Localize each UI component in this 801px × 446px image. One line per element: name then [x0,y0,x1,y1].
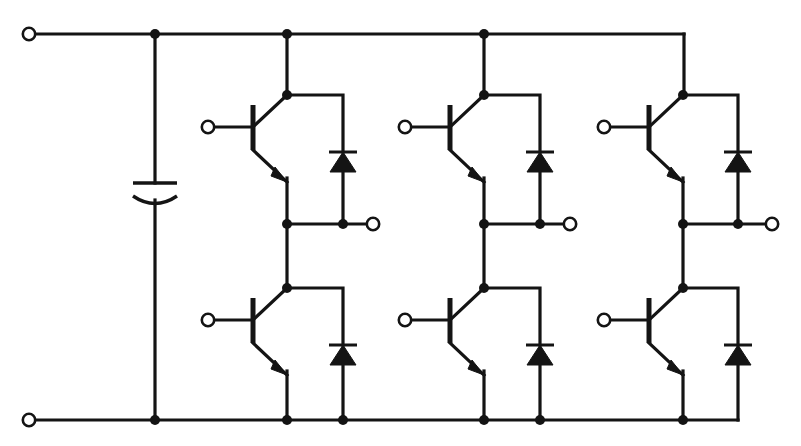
junction-bottom-u-diode [338,415,348,425]
dc-link-capacitor[interactable] [133,34,177,420]
lower-u-collector-lead [253,288,287,320]
freewheel-diode-lower-v[interactable] [484,288,554,420]
freewheel-diode-upper-v[interactable] [484,95,554,224]
junction-w-diode-mid [733,219,743,229]
junction-top-u [282,29,292,39]
lower-w-diode-top-link [683,288,738,345]
junction-top-capacitor [150,29,160,39]
circuit-schematic-canvas [0,0,801,446]
upper-w-diode-anode-triangle [725,152,751,172]
lower-v-diode-top-link [484,288,540,345]
gate-terminal-lower-v[interactable] [399,314,411,326]
junction-bottom-u-switch [282,415,292,425]
lower-v-collector-lead [450,288,484,320]
gate-terminal-upper-w[interactable] [598,121,610,133]
igbt-upper-v[interactable] [399,34,484,224]
rail-junction-dots [150,29,688,425]
igbt-upper-w[interactable] [598,34,684,224]
junction-bottom-v-switch [479,415,489,425]
dc-plus-terminal[interactable] [23,28,35,40]
junction-bottom-v-diode [535,415,545,425]
junction-collector-lower-w [678,283,688,293]
lower-v-diode-anode-triangle [527,345,553,365]
junction-v-diode-mid [535,219,545,229]
igbt-lower-v[interactable] [399,224,484,420]
upper-u-diode-anode-triangle [330,152,356,172]
ac-output-terminal-u[interactable] [367,218,379,230]
ac-output-v[interactable] [479,218,576,230]
junction-top-v [479,29,489,39]
dc-minus-terminal[interactable] [23,414,35,426]
junction-collector-lower-v [479,283,489,293]
upper-w-collector-rail-drop [683,34,684,95]
freewheel-diode-lower-w[interactable] [683,288,752,420]
freewheel-diode-lower-u[interactable] [287,288,357,420]
upper-v-diode-anode-triangle [527,152,553,172]
junction-bottom-capacitor [150,415,160,425]
junction-collector-lower-u [282,283,292,293]
freewheel-diode-upper-u[interactable] [287,95,357,224]
freewheel-diode-upper-w[interactable] [683,95,752,224]
dc-negative-rail-group [23,414,738,426]
ac-output-terminal-v[interactable] [564,218,576,230]
junction-u-diode-mid [338,219,348,229]
junction-collector-upper-v [479,90,489,100]
ac-output-terminal-w[interactable] [766,218,778,230]
lower-w-collector-lead [649,288,683,320]
junction-bottom-w-switch [678,415,688,425]
gate-terminal-upper-v[interactable] [399,121,411,133]
upper-u-collector-lead [253,95,287,127]
igbt-upper-u[interactable] [202,34,287,224]
gate-terminal-upper-u[interactable] [202,121,214,133]
junction-collector-upper-w [678,90,688,100]
upper-w-diode-top-link [683,95,738,152]
gate-terminal-lower-w[interactable] [598,314,610,326]
junction-collector-upper-u [282,90,292,100]
schematic-svg [0,0,801,446]
upper-v-diode-top-link [484,95,540,152]
lower-w-diode-anode-triangle [725,345,751,365]
upper-u-diode-top-link [287,95,343,152]
igbt-lower-u[interactable] [202,224,287,420]
lower-u-diode-anode-triangle [330,345,356,365]
dc-positive-rail-group [23,28,684,40]
igbt-lower-w[interactable] [598,224,683,420]
upper-w-collector-lead [649,95,683,127]
ac-output-w[interactable] [678,218,778,230]
lower-u-diode-top-link [287,288,343,345]
phase-leg-w [598,34,778,420]
upper-v-collector-lead [450,95,484,127]
gate-terminal-lower-u[interactable] [202,314,214,326]
ac-output-u[interactable] [282,218,379,230]
